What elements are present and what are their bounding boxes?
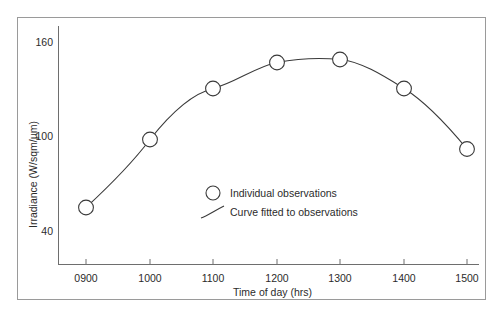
x-axis-title-text: Time of day (hrs) — [191, 286, 312, 298]
x-tick-label-1500: 1500 — [455, 272, 478, 284]
x-axis-title: Time of day (hrs) — [0, 286, 503, 298]
x-tick-label-1200: 1200 — [265, 272, 288, 284]
data-point-1000[interactable] — [143, 132, 158, 147]
open-circle-marker-icon — [196, 183, 230, 202]
chart-svg — [58, 26, 479, 265]
data-point-1400[interactable] — [397, 81, 412, 96]
data-point-0900[interactable] — [79, 200, 94, 215]
chart-legend: Individual observations Curve fitted to … — [196, 183, 406, 221]
legend-item-fitted-curve: Curve fitted to observations — [196, 202, 406, 221]
y-tick-label-40: 40 — [41, 226, 53, 237]
x-tick-label-1400: 1400 — [392, 272, 415, 284]
x-tick-label-1100: 1100 — [202, 272, 225, 284]
legend-label-fitted-curve: Curve fitted to observations — [230, 206, 358, 218]
x-tick-label-1000: 1000 — [138, 272, 161, 284]
figure-root: Irradiance (W/sqm/µm) 160 100 40 — [0, 0, 503, 319]
x-tick-label-1300: 1300 — [328, 272, 351, 284]
data-point-1200[interactable] — [270, 55, 285, 70]
y-tick-label-160: 160 — [35, 37, 53, 48]
data-point-1500[interactable] — [460, 142, 475, 157]
x-axis-tick-labels: 0900 1000 1100 1200 1300 1400 1500 — [0, 272, 503, 286]
data-point-1100[interactable] — [206, 81, 221, 96]
data-point-1300[interactable] — [333, 52, 348, 67]
y-tick-label-100: 100 — [35, 131, 53, 142]
legend-label-observations: Individual observations — [230, 187, 337, 199]
legend-item-observations: Individual observations — [196, 183, 406, 202]
plot-area — [58, 26, 479, 265]
curve-segment-icon — [196, 202, 230, 221]
x-tick-label-0900: 0900 — [74, 272, 97, 284]
